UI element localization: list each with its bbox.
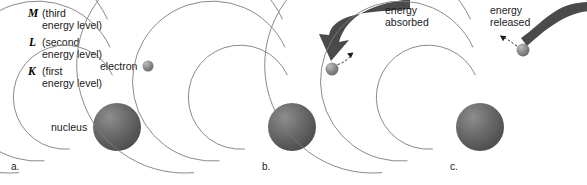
energy-level-desc-line1: (first <box>42 65 62 77</box>
figure-canvas: M(thirdenergy level)L(secondenergy level… <box>0 0 587 185</box>
energy-absorbed-label: energyabsorbed <box>385 4 429 28</box>
atom-energy-level-figure: M(thirdenergy level)L(secondenergy level… <box>0 0 587 185</box>
nucleus <box>268 103 316 151</box>
diagram-render-root: M(thirdenergy level)L(secondenergy level… <box>0 0 587 173</box>
energy-level-labels: M(thirdenergy level)L(secondenergy level… <box>27 7 102 89</box>
nucleus <box>456 103 504 151</box>
energy-level-l: L(secondenergy level) <box>28 36 102 60</box>
panel-letter: b. <box>262 161 270 172</box>
callout-line-1: energy <box>490 4 523 16</box>
nucleus-label: nucleus <box>51 121 87 133</box>
panel-letter: c. <box>450 161 458 172</box>
energy-level-desc-line2: energy level) <box>42 48 102 60</box>
energy-level-desc-line2: energy level) <box>42 77 102 89</box>
energy-released-arrow <box>521 0 587 46</box>
electron-label: electron <box>100 60 138 72</box>
energy-level-desc-line1: (third <box>42 7 66 19</box>
electron <box>517 44 530 57</box>
energy-level-desc-line2: energy level) <box>42 19 102 31</box>
electron <box>143 61 154 72</box>
electron <box>326 63 339 76</box>
electron-transition-arrowhead <box>347 52 353 58</box>
energy-level-m: M(thirdenergy level) <box>27 7 102 31</box>
callout-line-2: released <box>490 16 530 28</box>
energy-level-letter: M <box>27 7 39 19</box>
panel-letter: a. <box>11 161 19 172</box>
energy-level-k: K(firstenergy level) <box>27 65 102 89</box>
orbit-arc-2 <box>133 1 286 161</box>
energy-released-label: energyreleased <box>490 4 530 28</box>
energy-level-letter: L <box>28 36 36 48</box>
energy-level-letter: K <box>27 65 37 77</box>
callout-line-1: energy <box>385 4 418 16</box>
nucleus <box>93 103 141 151</box>
callout-line-2: absorbed <box>385 16 429 28</box>
